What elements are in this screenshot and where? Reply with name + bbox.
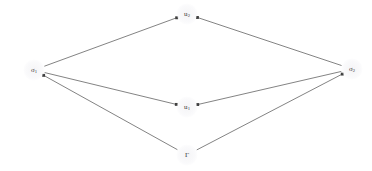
node-label-subscript-sigma2: 2: [353, 68, 355, 73]
node-label-base-gamma: Γ: [185, 151, 189, 159]
edge-sigma2-u1-arrowhead-icon: [196, 103, 199, 106]
edge-sigma2-u2: [197, 17, 341, 65]
diagram-canvas: σ1u2u1σ2Γ: [0, 0, 372, 171]
graph-edges-layer: [0, 0, 372, 171]
edge-gamma-sigma2: [197, 74, 342, 150]
edge-sigma2-u2-arrowhead-icon: [196, 16, 199, 19]
edge-sigma1-u1: [45, 73, 177, 105]
node-label-subscript-sigma1: 1: [35, 69, 37, 74]
node-label-subscript-u1: 1: [188, 106, 190, 111]
arrowhead-group: [42, 16, 344, 106]
edge-sigma1-u1-arrowhead-icon: [175, 103, 178, 106]
node-label-sigma1: σ1: [31, 67, 37, 74]
edge-sigma1-u2-arrowhead-icon: [175, 16, 178, 19]
node-label-gamma: Γ: [185, 152, 189, 159]
node-label-u2: u2: [184, 11, 190, 18]
node-label-subscript-u2: 2: [188, 13, 190, 18]
edge-sigma1-u2: [44, 18, 176, 66]
edge-group: [44, 17, 343, 149]
node-label-u1: u1: [184, 104, 190, 111]
edge-gamma-sigma1-arrowhead-icon: [42, 74, 45, 77]
node-label-sigma2: σ2: [349, 66, 355, 73]
edge-sigma2-u1: [198, 71, 342, 104]
edge-gamma-sigma1: [44, 75, 178, 149]
edge-gamma-sigma2-arrowhead-icon: [341, 73, 344, 76]
